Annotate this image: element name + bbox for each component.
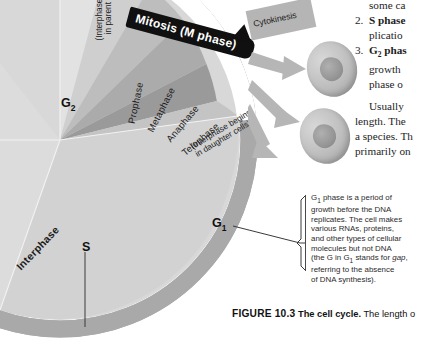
figure-caption-body: The length o — [363, 309, 415, 319]
g1-note-line: growth before the DNA — [311, 205, 435, 215]
book-para-line-1: Usually — [355, 99, 447, 114]
list-term-s-phase: S phase — [369, 14, 405, 26]
list-term-g2-phase: G2 phas — [369, 44, 407, 56]
list-number-2: 2. — [355, 13, 369, 28]
book-para-line-3: a species. Th — [355, 129, 447, 144]
book-list-item-2-line2: plicatio — [355, 28, 447, 43]
book-lead-line: some ca — [355, 0, 447, 13]
book-list-item-3: 3.G2 phas — [355, 43, 447, 62]
figure-title: The cell cycle. — [298, 309, 361, 319]
book-list-item-2: 2.S phase — [355, 13, 447, 28]
cytokinesis-label: Cytokinesis — [252, 10, 297, 29]
book-para-line-4: primarily on — [355, 144, 447, 159]
figure-number: FIGURE 10.3 — [232, 308, 295, 319]
book-body-text: some ca 2.S phase plicatio 3.G2 phas gro… — [355, 0, 447, 159]
g1-note-line: referring to the absence — [311, 265, 435, 275]
g1-note-line: and other types of cellular — [311, 234, 435, 244]
g1-note-line: molecules but not DNA — [311, 244, 435, 254]
daughter-cell-bottom — [293, 102, 356, 170]
g1-note-line: G1 phase is a period of — [311, 193, 435, 205]
g1-note-line: various RNAs, proteins, — [311, 224, 435, 234]
label-s: S — [82, 240, 90, 254]
g1-note-line: of DNA synthesis). — [311, 275, 435, 285]
g1-note: G1 phase is a period of growth before th… — [311, 193, 435, 285]
book-list-item-3-line2: growth — [355, 62, 447, 77]
book-para-line-2: length. The — [355, 114, 447, 129]
book-text-gap — [355, 92, 447, 99]
list-number-3: 3. — [355, 43, 369, 58]
figure-caption: FIGURE 10.3 The cell cycle. The length o — [232, 308, 447, 320]
label-g1: G1 — [212, 216, 226, 233]
book-list-item-3-line3: phase o — [355, 77, 447, 92]
g1-note-line: (the G in G1 stands for gap, — [311, 253, 435, 265]
label-g2: G2 — [61, 96, 75, 113]
g1-note-line: replicates. The cell makes — [311, 215, 435, 225]
g1-note-rule — [305, 195, 306, 271]
